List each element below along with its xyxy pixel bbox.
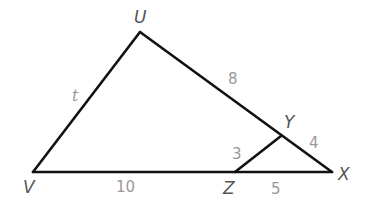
side-label-uy: 8 [228,70,238,88]
vertex-label-z: Z [222,178,235,198]
triangle-diagram: U V X Y Z t 8 4 3 10 5 [0,0,366,211]
vertex-label-y: Y [284,112,296,132]
side-label-zy: 3 [232,145,242,163]
side-label-uv: t [72,86,79,105]
vertex-label-x: X [337,164,350,184]
segment-uv [33,32,140,172]
side-label-zx: 5 [271,180,281,198]
vertex-label-u: U [134,7,147,27]
side-label-vz: 10 [116,178,135,196]
vertex-label-v: V [23,177,36,197]
side-label-yx: 4 [309,134,319,152]
segment-zy [235,136,281,172]
